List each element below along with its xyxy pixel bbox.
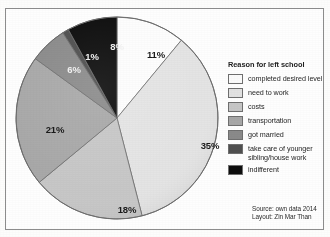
pie-slice-label: 18% [118,204,137,215]
credit-layout: Layout: Zin Mar Than [252,213,317,221]
legend-item[interactable]: need to work [228,88,326,99]
legend-color-swatch [228,165,243,175]
pie-slice-label: 8% [110,41,124,52]
credit-source: Source: own data 2014 [252,205,317,213]
pie-slice-label: 35% [201,140,220,151]
legend-color-swatch [228,74,243,84]
pie-slice-label: 1% [85,51,99,62]
legend-item-label: indifferent [248,165,279,174]
legend-items: completed desired levelneed to workcosts… [228,74,326,176]
pie-slice-label: 11% [147,49,165,60]
pie-chart-area: 11%35%18%21%6%1%8% [13,14,221,222]
legend-color-swatch [228,102,243,112]
pie-slice-label: 21% [46,124,65,135]
legend-item[interactable]: costs [228,102,326,113]
pie-chart-figure: 11%35%18%21%6%1%8% Reason for left schoo… [0,0,330,237]
legend-item-label: costs [248,102,265,111]
legend-item-label: completed desired level [248,74,322,83]
legend-item-label: need to work [248,88,289,97]
legend-item-label: got married [248,130,284,139]
legend-item-label: take care of younger sibling/house work [248,144,326,162]
pie-slice-label: 6% [67,64,81,75]
legend-item[interactable]: got married [228,130,326,141]
legend-title: Reason for left school [228,60,326,69]
figure-credits: Source: own data 2014 Layout: Zin Mar Th… [252,205,317,221]
chart-legend: Reason for left school completed desired… [228,60,326,179]
legend-item-label: transportation [248,116,291,125]
legend-color-swatch [228,130,243,140]
legend-item[interactable]: completed desired level [228,74,326,85]
legend-item[interactable]: take care of younger sibling/house work [228,144,326,162]
legend-color-swatch [228,144,243,154]
legend-item[interactable]: transportation [228,116,326,127]
legend-item[interactable]: indifferent [228,165,326,176]
legend-color-swatch [228,88,243,98]
legend-color-swatch [228,116,243,126]
